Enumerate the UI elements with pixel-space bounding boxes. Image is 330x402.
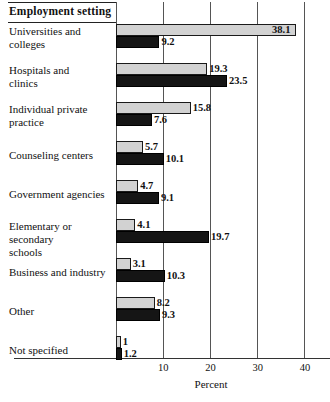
bar-dark <box>116 309 160 321</box>
value-label-dark: 10.1 <box>166 153 184 165</box>
category-label-line: colleges <box>9 38 114 51</box>
value-label-dark: 9.3 <box>162 309 175 321</box>
category-label: Counseling centers <box>9 149 114 162</box>
value-label-light: 8.2 <box>157 297 170 309</box>
category-label-line: Government agencies <box>9 188 114 201</box>
category-label-line: Business and industry <box>9 266 114 279</box>
category-label-line: practice <box>9 116 114 129</box>
value-label-light: 4.7 <box>140 180 153 192</box>
bar-light <box>116 258 131 270</box>
gridline-40 <box>304 2 305 358</box>
bar-light <box>116 297 155 309</box>
value-label-dark: 1.2 <box>124 348 137 360</box>
value-label-light: 5.7 <box>145 141 158 153</box>
page-title: Employment setting <box>9 5 111 17</box>
category-label-line: Elementary or secondary <box>9 220 114 246</box>
category-label-line: Counseling centers <box>9 149 114 162</box>
bar-dark <box>116 114 152 126</box>
value-label-light: 19.3 <box>209 63 227 75</box>
x-tick-label: 30 <box>253 362 264 373</box>
bar-dark <box>116 231 209 243</box>
bar-dark <box>116 270 165 282</box>
value-label-dark: 19.7 <box>211 231 229 243</box>
x-axis-line <box>14 358 330 359</box>
header-top-rule <box>8 2 116 3</box>
category-label: Elementary or secondaryschools <box>9 220 114 259</box>
value-label-dark: 9.1 <box>161 192 174 204</box>
x-tick-label: 10 <box>158 362 169 373</box>
bar-dark <box>116 75 227 87</box>
x-tick-label: 20 <box>205 362 216 373</box>
category-label: Hospitals andclinics <box>9 64 114 90</box>
value-label-dark: 23.5 <box>229 75 247 87</box>
bar-dark <box>116 192 159 204</box>
header-bottom-rule <box>8 22 116 23</box>
bar-light <box>116 336 121 348</box>
value-label-light: 4.1 <box>137 219 150 231</box>
value-label-light: 38.1 <box>272 24 290 36</box>
category-label-line: Universities and <box>9 25 114 38</box>
x-axis-label: Percent <box>195 378 228 390</box>
category-label-line: Other <box>9 305 114 318</box>
category-label: Individual privatepractice <box>9 103 114 129</box>
category-label: Other <box>9 305 114 318</box>
gridline-30 <box>257 2 258 358</box>
bar-light <box>116 219 135 231</box>
value-label-light: 1 <box>123 336 128 348</box>
bar-dark <box>116 348 122 360</box>
bar-light <box>116 141 143 153</box>
value-label-dark: 9.2 <box>161 36 174 48</box>
value-label-light: 3.1 <box>133 258 146 270</box>
category-label: Not specified <box>9 344 114 357</box>
gridline-20 <box>210 2 211 358</box>
category-label-line: Not specified <box>9 344 114 357</box>
x-tick-label: 40 <box>300 362 311 373</box>
category-label: Universities andcolleges <box>9 25 114 51</box>
bar-light <box>116 24 296 36</box>
bar-light <box>116 63 207 75</box>
bar-light <box>116 180 138 192</box>
value-label-dark: 10.3 <box>167 270 185 282</box>
category-label-line: schools <box>9 246 114 259</box>
value-label-light: 15.8 <box>193 102 211 114</box>
bar-light <box>116 102 191 114</box>
chart-figure: Employment setting Universities andcolle… <box>0 0 330 402</box>
category-label: Business and industry <box>9 266 114 279</box>
bar-dark <box>116 153 164 165</box>
category-label: Government agencies <box>9 188 114 201</box>
category-label-line: clinics <box>9 77 114 90</box>
category-label-line: Hospitals and <box>9 64 114 77</box>
category-label-line: Individual private <box>9 103 114 116</box>
value-label-dark: 7.6 <box>154 114 167 126</box>
bar-dark <box>116 36 159 48</box>
